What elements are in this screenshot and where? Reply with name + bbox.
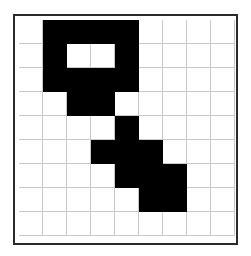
grid-cell [19,116,43,140]
grid-cell [187,212,211,236]
grid-cell [139,140,163,164]
grid-cell [211,212,235,236]
grid-cell [91,164,115,188]
grid-cell [139,188,163,212]
grid-cell [91,140,115,164]
grid-cell [67,20,91,44]
grid-cell [19,20,43,44]
grid-cell [163,212,187,236]
grid-cell [211,188,235,212]
grid-cell [139,212,163,236]
grid-cell [187,188,211,212]
grid-cell [163,188,187,212]
grid-cell [211,68,235,92]
grid-cell [163,44,187,68]
grid-cell [67,44,91,68]
grid-cell [43,20,67,44]
grid-frame [13,14,238,245]
grid-cell [211,164,235,188]
grid-cell [43,68,67,92]
grid-cell [19,92,43,116]
grid-cell [115,116,139,140]
grid-cell [19,44,43,68]
grid-cell [43,116,67,140]
grid-cell [139,116,163,140]
grid-cell [211,116,235,140]
grid-cell [115,188,139,212]
grid-cell [139,164,163,188]
grid-cell [91,20,115,44]
grid-cell [163,92,187,116]
grid-cell [91,188,115,212]
grid-cell [139,92,163,116]
grid-cell [115,44,139,68]
grid-cell [43,44,67,68]
grid-cell [91,212,115,236]
grid-cell [187,20,211,44]
grid-cell [187,44,211,68]
grid-cell [163,140,187,164]
grid-cell [67,68,91,92]
grid-cell [211,92,235,116]
grid-cell [187,92,211,116]
grid-cell [67,140,91,164]
grid-cell [139,20,163,44]
grid-cell [163,68,187,92]
grid-cell [211,140,235,164]
grid-cell [67,116,91,140]
grid-cell [43,188,67,212]
grid-cell [43,140,67,164]
grid-cell [43,92,67,116]
grid-cell [139,44,163,68]
pixel-grid [19,20,235,236]
grid-cell [67,164,91,188]
grid-cell [43,164,67,188]
grid-cell [91,92,115,116]
grid-cell [67,188,91,212]
grid-cell [139,68,163,92]
grid-cell [19,212,43,236]
grid-cell [91,44,115,68]
grid-cell [115,92,139,116]
grid-cell [19,140,43,164]
grid-cell [163,116,187,140]
grid-cell [115,20,139,44]
grid-cell [115,212,139,236]
grid-cell [187,164,211,188]
grid-cell [67,212,91,236]
grid-cell [43,212,67,236]
grid-cell [67,92,91,116]
grid-cell [187,140,211,164]
grid-cell [19,164,43,188]
grid-cell [19,68,43,92]
grid-cell [163,20,187,44]
grid-cell [187,68,211,92]
grid-cell [115,164,139,188]
grid-cell [91,116,115,140]
grid-cell [115,68,139,92]
grid-cell [211,20,235,44]
grid-cell [163,164,187,188]
grid-cell [115,140,139,164]
grid-cell [211,44,235,68]
grid-cell [187,116,211,140]
grid-cell [19,188,43,212]
grid-cell [91,68,115,92]
